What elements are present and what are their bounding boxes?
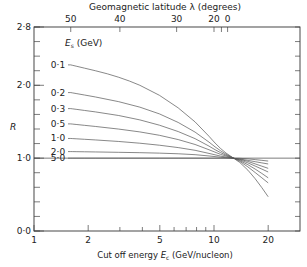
y-tick-label: 2·8 xyxy=(17,22,32,32)
y-axis-label: R xyxy=(10,122,16,132)
series-label: 1·0 xyxy=(51,133,66,143)
chart: Geomagnetic latitude λ (degrees) 5040302… xyxy=(0,0,307,267)
series-curve-0-3 xyxy=(71,109,268,178)
x-tick-label: 5 xyxy=(157,235,163,245)
legend-title: Es (GeV) xyxy=(65,38,102,49)
plot-frame xyxy=(34,27,300,231)
series-curve-0-1 xyxy=(71,65,268,197)
x-tick-label: 2 xyxy=(85,235,91,245)
series-curve-2-0 xyxy=(71,152,268,164)
top-tick-label: 50 xyxy=(65,14,77,24)
series-label: 0·3 xyxy=(51,104,65,114)
series-label: 0·2 xyxy=(51,88,65,98)
series-curve-0-5 xyxy=(71,124,268,172)
x-tick-label: 1 xyxy=(31,235,37,245)
y-tick-label: 1·0 xyxy=(17,153,32,163)
top-tick-label: 20 xyxy=(208,14,220,24)
top-axis-title: Geomagnetic latitude λ (degrees) xyxy=(89,2,241,12)
x-tick-label: 20 xyxy=(262,235,274,245)
y-tick-label: 2·0 xyxy=(17,80,32,90)
x-axis-label: Cut off energy Ec (GeV/nucleon) xyxy=(97,250,233,261)
series-label: 0·1 xyxy=(51,60,65,70)
series-label: 5·0 xyxy=(51,153,66,163)
series-label: 0·5 xyxy=(51,119,65,129)
top-tick-label: 30 xyxy=(171,14,183,24)
y-tick-label: 0·0 xyxy=(17,226,32,236)
top-tick-label: 0 xyxy=(225,14,231,24)
x-tick-label: 10 xyxy=(208,235,220,245)
top-tick-label: 40 xyxy=(114,14,126,24)
